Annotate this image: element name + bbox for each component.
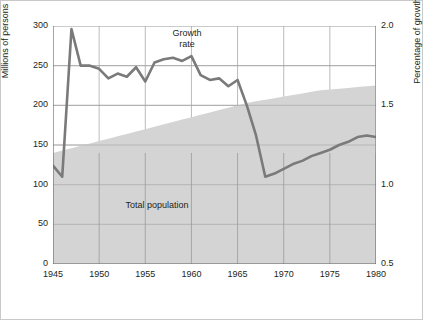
x-axis-tick-label: 1975 (316, 269, 344, 279)
x-axis-tick-label: 1965 (224, 269, 252, 279)
right-axis-tick-label: 1.0 (381, 179, 394, 189)
left-axis-tick-label: 200 (20, 99, 48, 109)
x-axis-tick-label: 1950 (85, 269, 113, 279)
x-axis-tick-label: 1980 (362, 269, 390, 279)
chart-canvas (53, 26, 376, 264)
growth-rate-annotation: Growth rate (141, 28, 233, 50)
left-axis-tick-label: 100 (20, 179, 48, 189)
x-axis-tick-label: 1955 (131, 269, 159, 279)
right-axis-tick-label: 2.0 (381, 20, 394, 30)
right-axis-tick-label: 1.5 (381, 99, 394, 109)
left-axis-tick-label: 300 (20, 20, 48, 30)
chart-figure: Millions of persons Percentage of growth… (0, 0, 423, 320)
growth-rate-annotation-line1: Growth (172, 28, 201, 38)
left-axis-title: Millions of persons (0, 0, 10, 93)
right-axis-tick-label: 0.5 (381, 258, 394, 268)
left-axis-tick-label: 250 (20, 60, 48, 70)
growth-rate-annotation-line2: rate (179, 39, 195, 49)
total-population-annotation: Total population (105, 200, 209, 211)
right-axis-title: Percentage of growth (412, 0, 422, 101)
plot-area (53, 26, 376, 264)
left-axis-tick-label: 150 (20, 139, 48, 149)
total-population-area (53, 86, 376, 265)
x-axis-tick-label: 1970 (270, 269, 298, 279)
x-axis-tick-label: 1945 (39, 269, 67, 279)
left-axis-tick-label: 50 (20, 218, 48, 228)
left-axis-tick-label: 0 (20, 258, 48, 268)
x-axis-tick-label: 1960 (177, 269, 205, 279)
